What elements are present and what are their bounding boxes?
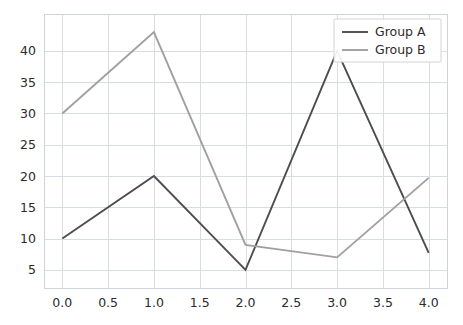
legend-label-group-a[interactable]: Group A — [375, 24, 426, 39]
x-tick-label: 2.0 — [236, 295, 256, 310]
x-axis-tick-labels: 0.00.51.01.52.02.53.03.54.0 — [52, 295, 438, 310]
y-tick-label: 15 — [20, 200, 36, 215]
y-tick-label: 20 — [20, 169, 36, 184]
y-tick-label: 10 — [20, 231, 36, 246]
chart-figure: 0.00.51.01.52.02.53.03.54.0 510152025303… — [0, 0, 463, 325]
x-tick-label: 0.0 — [52, 295, 72, 310]
x-tick-label: 3.0 — [327, 295, 347, 310]
chart-legend[interactable]: Group AGroup B — [334, 19, 441, 62]
y-tick-label: 35 — [20, 75, 36, 90]
x-tick-label: 3.5 — [373, 295, 393, 310]
x-tick-label: 0.5 — [98, 295, 118, 310]
x-tick-label: 4.0 — [419, 295, 439, 310]
y-tick-label: 30 — [20, 106, 36, 121]
line-chart: 0.00.51.01.52.02.53.03.54.0 510152025303… — [0, 0, 463, 325]
y-tick-label: 40 — [20, 43, 36, 58]
y-tick-label: 25 — [20, 137, 36, 152]
y-tick-label: 5 — [28, 262, 36, 277]
legend-label-group-b[interactable]: Group B — [375, 42, 426, 57]
x-tick-label: 1.5 — [190, 295, 210, 310]
x-tick-label: 2.5 — [281, 295, 301, 310]
plot-area-wrapper: 0.00.51.01.52.02.53.03.54.0 510152025303… — [0, 0, 463, 325]
x-tick-label: 1.0 — [144, 295, 164, 310]
